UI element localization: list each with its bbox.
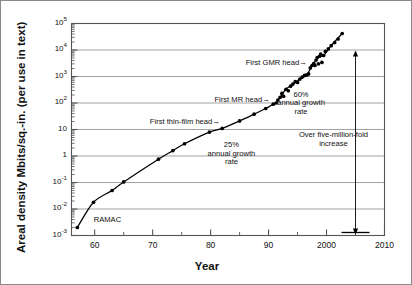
y-tick-exponent: -3 <box>61 227 67 234</box>
x-tick-label: 2000 <box>307 241 347 251</box>
annotation-ramac: RAMAC <box>47 216 167 225</box>
y-tick-mantissa: 10 <box>55 44 64 53</box>
annotation-gmr-text: First GMR head <box>246 58 300 67</box>
y-tick-label: 10 <box>33 125 67 134</box>
y-tick-mantissa: 10 <box>55 71 64 80</box>
y-tick-exponent: 4 <box>64 41 67 48</box>
y-tick-exponent: -1 <box>61 174 67 181</box>
y-tick-exponent: 2 <box>64 94 67 101</box>
y-tick-label: 102 <box>33 98 67 107</box>
y-tick-exponent: 5 <box>64 15 67 22</box>
growth25-line3: rate <box>171 158 291 167</box>
y-tick-label: 103 <box>33 72 67 81</box>
y-tick-label: 104 <box>33 45 67 54</box>
y-tick-mantissa: 10 <box>55 97 64 106</box>
fivefold-line2: increase <box>273 140 393 149</box>
x-axis-title: Year <box>1 260 412 273</box>
y-tick-exponent: -2 <box>61 200 67 207</box>
annotation-first-gmr-head: First GMR head→ <box>187 59 307 68</box>
y-tick-mantissa: 1 <box>63 150 67 159</box>
y-tick-mantissa: 10 <box>58 124 67 133</box>
annotation-first-thin-film-head: First thin-film head→ <box>100 118 220 127</box>
annotation-thin-film-text: First thin-film head <box>150 117 212 126</box>
y-tick-label: 1 <box>33 151 67 160</box>
y-tick-label: 105 <box>33 19 67 28</box>
y-tick-label: 10-1 <box>33 178 67 187</box>
y-axis-ticks <box>72 24 78 236</box>
x-axis-ticks <box>95 230 385 236</box>
annotation-60-percent-growth: 60% annual growth rate <box>241 91 361 117</box>
y-tick-exponent: 3 <box>64 68 67 75</box>
y-tick-mantissa: 10 <box>55 18 64 27</box>
x-tick-label: 2010 <box>365 241 405 251</box>
x-tick-label: 90 <box>249 241 289 251</box>
x-tick-label: 80 <box>191 241 231 251</box>
figure-container: Year Areal density Mbits/sq.-in. (per us… <box>0 0 412 285</box>
y-tick-label: 10-3 <box>33 231 67 240</box>
x-tick-label: 70 <box>133 241 173 251</box>
annotation-five-million-fold: Over five-million-fold increase <box>273 131 393 148</box>
y-axis-title: Areal density Mbits/sq.-in. (per use in … <box>15 22 28 253</box>
arrow-right-icon: → <box>212 117 220 126</box>
arrow-right-icon: → <box>299 58 307 67</box>
growth60-line3: rate <box>241 108 361 117</box>
y-tick-label: 10-2 <box>33 204 67 213</box>
x-tick-label: 60 <box>75 241 115 251</box>
